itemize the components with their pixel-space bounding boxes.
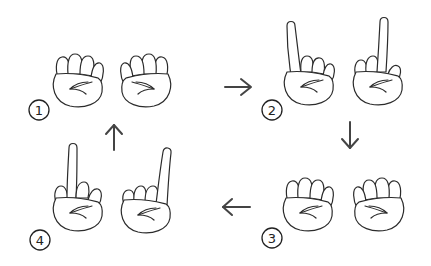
step-2-right-hand-middle-raised [353,18,402,105]
step-3-number: 3 [268,231,276,246]
step-2-number-badge: 2 [262,100,282,120]
step-3-right-hand-fist [354,178,404,231]
step-3-left-hand-fist [283,178,333,231]
step-1-number: 1 [35,103,43,118]
arrow-right-icon [225,79,251,95]
step-3-number-badge: 3 [262,228,282,248]
arrow-left-icon [223,199,250,215]
step-1-right-hand-fist [121,54,171,107]
step-2-number: 2 [268,103,276,118]
arrow-down-icon [342,122,358,148]
hand-gesture-diagram: 1 2 3 4 [0,0,431,266]
step-4-left-hand-middle-raised [53,144,102,231]
step-3: 3 [262,178,404,248]
step-4-number-badge: 4 [30,230,50,250]
step-4-right-hand-index-raised [121,148,171,233]
step-4-number: 4 [36,233,44,248]
step-2: 2 [262,18,402,121]
step-4: 4 [30,144,171,251]
step-1: 1 [29,54,171,120]
step-2-left-hand-index-raised [284,22,334,105]
step-1-left-hand-fist [53,54,103,107]
arrow-up-icon [106,125,122,150]
step-1-number-badge: 1 [29,100,49,120]
